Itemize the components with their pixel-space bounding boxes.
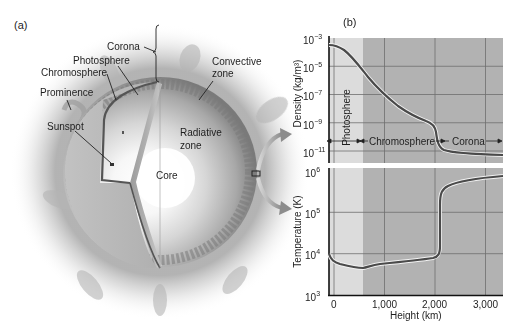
density-tick-1: 10−3 bbox=[303, 33, 322, 46]
temperature-axis-label: Temperature (K) bbox=[292, 190, 303, 274]
height-axis-label: Height (km) bbox=[390, 311, 442, 321]
region-label-corona: Corona bbox=[452, 136, 485, 147]
height-tick-1000: 1,000 bbox=[372, 300, 397, 310]
sunspot-mark bbox=[110, 163, 114, 166]
panel-b-tag: (b) bbox=[343, 17, 356, 28]
label-prominence: Prominence bbox=[40, 87, 93, 98]
label-convective-zone-2: zone bbox=[212, 68, 234, 79]
region-label-photosphere: Photosphere bbox=[341, 86, 352, 150]
density-axis-label: Density (kg/m³) bbox=[292, 52, 303, 136]
label-radiative-zone-1: Radiative bbox=[180, 127, 222, 138]
temperature-tick-2: 105 bbox=[305, 207, 320, 220]
region-label-chromosphere: Chromosphere bbox=[369, 136, 435, 147]
height-tick-2000: 2,000 bbox=[422, 300, 447, 310]
label-sunspot: Sunspot bbox=[47, 121, 84, 132]
temperature-tick-3: 104 bbox=[305, 248, 320, 261]
density-tick-3: 10−7 bbox=[303, 89, 322, 102]
temperature-tick-4: 103 bbox=[305, 290, 320, 303]
label-chromosphere: Chromosphere bbox=[41, 67, 107, 78]
label-photosphere: Photosphere bbox=[73, 55, 130, 66]
height-tick-0: 0 bbox=[331, 300, 337, 310]
density-tick-2: 10−5 bbox=[303, 61, 322, 74]
label-radiative-zone-2: zone bbox=[180, 140, 202, 151]
density-tick-4: 10−9 bbox=[303, 118, 322, 131]
label-core: Core bbox=[156, 170, 178, 181]
density-tick-5: 10−11 bbox=[303, 146, 325, 159]
label-corona: Corona bbox=[107, 41, 140, 52]
sun-illustration bbox=[0, 0, 515, 333]
temperature-tick-1: 106 bbox=[305, 166, 320, 179]
height-tick-3000: 3,000 bbox=[473, 300, 498, 310]
label-convective-zone-1: Convective bbox=[212, 56, 261, 67]
panel-a-tag: (a) bbox=[14, 20, 27, 31]
